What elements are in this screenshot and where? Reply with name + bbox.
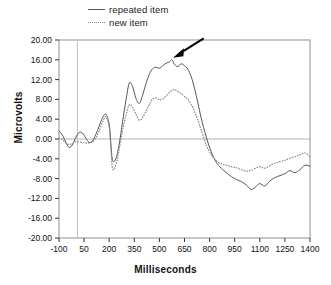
svg-text:16.00: 16.00 bbox=[31, 55, 53, 65]
svg-text:-16.00: -16.00 bbox=[28, 213, 52, 223]
svg-text:0.00: 0.00 bbox=[35, 134, 52, 144]
svg-text:500: 500 bbox=[152, 244, 166, 254]
x-axis-ticks: -10050200350500650800950110012501400 bbox=[50, 238, 319, 254]
svg-text:12.00: 12.00 bbox=[31, 75, 53, 85]
svg-text:1250: 1250 bbox=[275, 244, 294, 254]
svg-text:20.00: 20.00 bbox=[31, 35, 53, 45]
svg-text:-12.00: -12.00 bbox=[28, 193, 52, 203]
reference-lines bbox=[59, 40, 310, 238]
data-series-group bbox=[59, 60, 310, 190]
y-axis-label: Microvolts bbox=[13, 83, 24, 153]
x-axis-label: Milliseconds bbox=[0, 264, 331, 275]
svg-text:1400: 1400 bbox=[301, 244, 320, 254]
svg-text:-8.00: -8.00 bbox=[33, 174, 53, 184]
svg-text:800: 800 bbox=[203, 244, 217, 254]
chart-plot-area: 20.0016.0012.008.004.000.00-4.00-8.00-12… bbox=[0, 0, 331, 285]
y-axis-ticks: 20.0016.0012.008.004.000.00-4.00-8.00-12… bbox=[28, 35, 59, 243]
svg-text:-4.00: -4.00 bbox=[33, 154, 53, 164]
svg-text:8.00: 8.00 bbox=[35, 94, 52, 104]
svg-text:350: 350 bbox=[127, 244, 141, 254]
svg-text:50: 50 bbox=[79, 244, 89, 254]
svg-text:-20.00: -20.00 bbox=[28, 233, 52, 243]
chart-screenshot: repeated item new item 20.0016.0012.008.… bbox=[0, 0, 331, 285]
svg-text:650: 650 bbox=[177, 244, 191, 254]
svg-text:-100: -100 bbox=[50, 244, 67, 254]
arrow-pointer bbox=[173, 39, 203, 58]
svg-text:4.00: 4.00 bbox=[35, 114, 52, 124]
svg-text:200: 200 bbox=[102, 244, 116, 254]
svg-text:950: 950 bbox=[228, 244, 242, 254]
svg-text:1100: 1100 bbox=[251, 244, 270, 254]
